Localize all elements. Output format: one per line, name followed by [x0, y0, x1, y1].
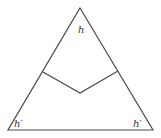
triangle-diagram: h h′ h′ — [0, 0, 161, 138]
label-apex: h — [78, 24, 84, 35]
label-bottom-left: h′ — [14, 118, 23, 129]
inner-v-polyline — [43, 71, 118, 93]
label-bottom-right: h′ — [133, 118, 142, 129]
